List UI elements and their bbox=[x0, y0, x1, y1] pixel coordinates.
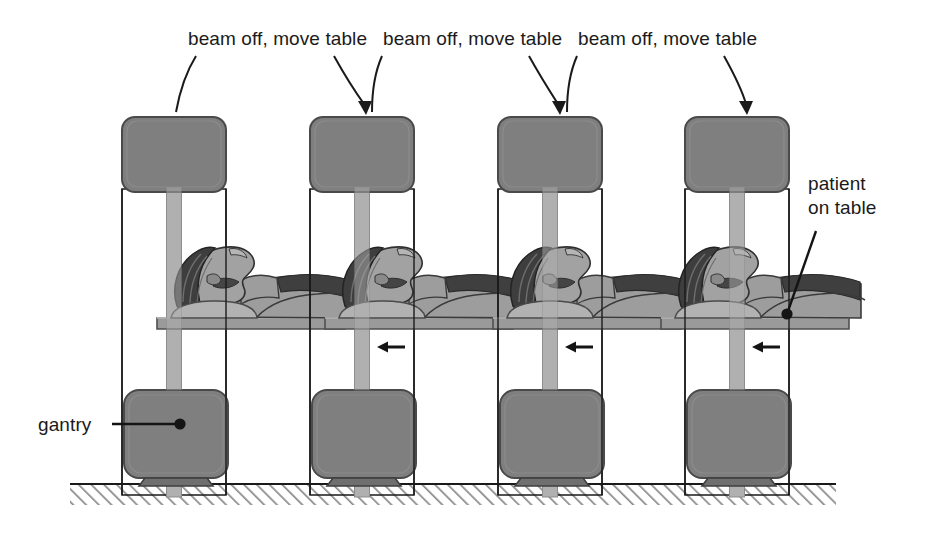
leader-line-3 bbox=[567, 56, 577, 112]
callout-gantry-label: gantry bbox=[38, 414, 92, 435]
leader-line-1 bbox=[176, 56, 196, 112]
patient-on-table-1 bbox=[157, 247, 361, 329]
callout-patient-label-line1: patient bbox=[808, 173, 866, 194]
top-annotations: beam off, move table beam off, move tabl… bbox=[176, 28, 757, 115]
table-move-arrow-3 bbox=[565, 342, 593, 353]
diagram-canvas: beam off, move table beam off, move tabl… bbox=[0, 0, 929, 533]
callout-gantry-dot bbox=[174, 418, 185, 429]
table-move-arrow-4 bbox=[752, 342, 780, 353]
patient-on-table-3 bbox=[493, 247, 697, 329]
leader-arrow-1to2 bbox=[334, 56, 372, 115]
station-3 bbox=[493, 117, 697, 497]
ct-axial-scan-diagram: beam off, move table beam off, move tabl… bbox=[0, 0, 929, 533]
table-move-arrow-2 bbox=[377, 342, 405, 353]
label-beam-off-3: beam off, move table bbox=[578, 28, 757, 49]
label-beam-off-2: beam off, move table bbox=[383, 28, 562, 49]
callout-patient-label-line2: on table bbox=[808, 197, 876, 218]
label-beam-off-1: beam off, move table bbox=[188, 28, 367, 49]
callout-patient-dot bbox=[781, 308, 792, 319]
leader-line-2 bbox=[372, 56, 382, 112]
leader-arrow-2to3 bbox=[529, 56, 566, 115]
patient-on-table-4 bbox=[661, 247, 865, 329]
leader-arrow-3to4 bbox=[724, 56, 753, 115]
